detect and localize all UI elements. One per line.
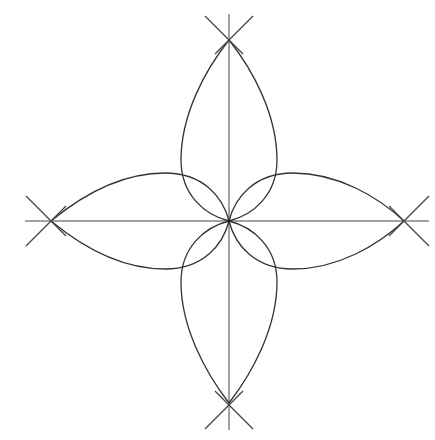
center-point <box>227 219 230 222</box>
four-petal-diagram <box>0 0 435 440</box>
